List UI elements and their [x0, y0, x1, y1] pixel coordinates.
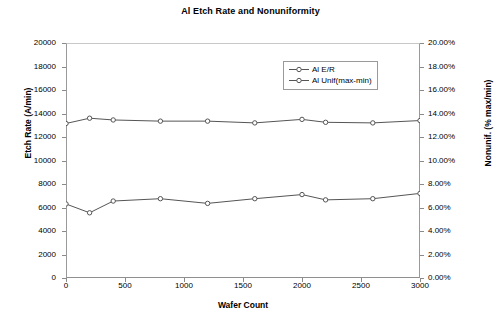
series-marker [418, 191, 420, 195]
legend-label: Al E/R [312, 65, 335, 74]
y-axis-right-tick-label: 20.00% [428, 38, 455, 48]
series-marker [66, 121, 68, 125]
x-axis-tick-label: 1500 [234, 281, 252, 291]
series-marker [418, 118, 420, 122]
series-line-2 [66, 193, 420, 212]
y-axis-left-tick-label: 20000 [34, 38, 56, 48]
y-axis-left-tick-label: 18000 [34, 62, 56, 72]
series-marker [87, 211, 91, 215]
y-axis-right-tickmark [420, 161, 424, 162]
y-axis-right-tickmark [420, 90, 424, 91]
series-marker [323, 198, 327, 202]
y-axis-left-tick-label: 4000 [38, 226, 56, 236]
y-axis-right-title: Nonunif. (% max/min) [483, 33, 493, 213]
series-marker [323, 120, 327, 124]
y-axis-right-tickmark [420, 231, 424, 232]
y-axis-right-tick-label: 12.00% [428, 132, 455, 142]
x-axis-tick-label: 2000 [293, 281, 311, 291]
legend-marker-icon [288, 65, 310, 74]
x-axis-tick-label: 3000 [411, 281, 429, 291]
series-marker [253, 121, 257, 125]
y-axis-left-tick-label: 6000 [38, 203, 56, 213]
series-marker [87, 116, 91, 120]
y-axis-right-tickmark [420, 208, 424, 209]
x-axis-tickmark [420, 278, 421, 282]
y-axis-right-tick-label: 14.00% [428, 109, 455, 119]
series-line-1 [66, 118, 420, 123]
y-axis-right-tick-label: 8.00% [428, 179, 451, 189]
y-axis-right-tickmark [420, 255, 424, 256]
series-marker [158, 119, 162, 123]
y-axis-right-tick-label: 16.00% [428, 85, 455, 95]
chart-title: Al Etch Rate and Nonuniformity [0, 6, 501, 16]
series-marker [111, 199, 115, 203]
y-axis-right-tick-label: 6.00% [428, 203, 451, 213]
series-marker [300, 117, 304, 121]
legend-label: Al Unif(max-min) [312, 76, 372, 85]
x-axis-tickmark [302, 278, 303, 282]
y-axis-left-tick-label: 8000 [38, 179, 56, 189]
x-axis-ticks: 050010001500200025003000 [66, 281, 420, 297]
series-marker [371, 196, 375, 200]
y-axis-left-tick-label: 16000 [34, 85, 56, 95]
y-axis-left-tick-label: 14000 [34, 109, 56, 119]
y-axis-left-title: Etch Rate (A/min) [23, 43, 33, 203]
x-axis-tickmark [243, 278, 244, 282]
y-axis-right-tick-label: 0.00% [428, 273, 451, 283]
chart-container: Al Etch Rate and Nonuniformity 020004000… [0, 0, 501, 336]
y-axis-right-ticks: 0.00%2.00%4.00%6.00%8.00%10.00%12.00%14.… [424, 43, 484, 278]
y-axis-right-tick-label: 4.00% [428, 226, 451, 236]
x-axis-title: Wafer Count [66, 300, 420, 310]
series-marker [66, 202, 68, 206]
series-marker [158, 196, 162, 200]
y-axis-right-tickmark [420, 43, 424, 44]
legend-item-1: Al E/R [288, 64, 372, 75]
y-axis-left-tick-label: 2000 [38, 250, 56, 260]
y-axis-right-tick-label: 2.00% [428, 250, 451, 260]
y-axis-right-tickmark [420, 184, 424, 185]
y-axis-left-tick-label: 0 [52, 273, 56, 283]
y-axis-right-tick-label: 18.00% [428, 62, 455, 72]
legend-item-2: Al Unif(max-min) [288, 75, 372, 86]
series-marker [205, 119, 209, 123]
y-axis-right-tick-label: 10.00% [428, 156, 455, 166]
series-marker [371, 121, 375, 125]
x-axis-tick-label: 1000 [175, 281, 193, 291]
series-marker [300, 192, 304, 196]
x-axis-tickmark [66, 278, 67, 282]
y-axis-left-tick-label: 12000 [34, 132, 56, 142]
x-axis-tickmark [184, 278, 185, 282]
y-axis-left-tick-label: 10000 [34, 156, 56, 166]
x-axis-tick-label: 500 [118, 281, 131, 291]
y-axis-right-tickmark [420, 137, 424, 138]
x-axis-tickmark [361, 278, 362, 282]
x-axis-tickmark [125, 278, 126, 282]
series-marker [205, 201, 209, 205]
x-axis-tick-label: 0 [64, 281, 68, 291]
y-axis-right-tickmark [420, 114, 424, 115]
series-marker [111, 118, 115, 122]
x-axis-tick-label: 2500 [352, 281, 370, 291]
series-marker [253, 196, 257, 200]
y-axis-right-tickmark [420, 67, 424, 68]
legend-marker-icon [288, 76, 310, 85]
chart-legend: Al E/RAl Unif(max-min) [283, 61, 378, 90]
